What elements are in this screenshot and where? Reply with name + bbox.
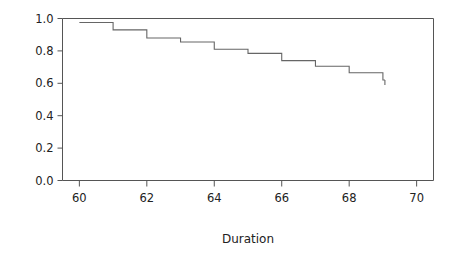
chart-figure: 0.00.20.40.60.81.0606264666870Duration	[0, 0, 467, 263]
x-axis-title: Duration	[222, 232, 274, 246]
x-tick-label-68: 68	[342, 191, 357, 205]
x-tick-label-64: 64	[207, 191, 222, 205]
step-chart-svg: 0.00.20.40.60.81.0606264666870Duration	[0, 0, 467, 263]
y-tick-label-1.0: 1.0	[35, 12, 53, 26]
y-tick-label-0.0: 0.0	[35, 174, 53, 188]
x-tick-label-60: 60	[72, 191, 87, 205]
plot-frame-border	[63, 19, 434, 181]
y-tick-label-0.6: 0.6	[35, 76, 53, 90]
x-tick-label-70: 70	[409, 191, 424, 205]
survival-step-line-survival	[79, 23, 385, 81]
x-tick-label-62: 62	[139, 191, 154, 205]
y-tick-label-0.4: 0.4	[35, 109, 53, 123]
y-tick-label-0.8: 0.8	[35, 44, 53, 58]
x-tick-label-66: 66	[274, 191, 289, 205]
y-tick-label-0.2: 0.2	[35, 141, 53, 155]
